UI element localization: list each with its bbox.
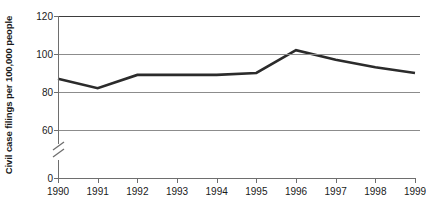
x-tick-mark-1996 bbox=[296, 178, 297, 183]
series-path bbox=[58, 50, 415, 88]
data-series-line bbox=[58, 16, 420, 178]
y-axis-spine-upper bbox=[58, 16, 59, 144]
plot-area: 6080100120019901991199219931994199519961… bbox=[58, 16, 420, 178]
y-tick-label-100: 100 bbox=[36, 49, 53, 60]
x-tick-mark-1992 bbox=[137, 178, 138, 183]
x-tick-mark-1997 bbox=[336, 178, 337, 183]
x-tick-label-1990: 1990 bbox=[47, 186, 69, 197]
x-tick-label-1994: 1994 bbox=[206, 186, 228, 197]
y-tick-label-120: 120 bbox=[36, 11, 53, 22]
x-tick-label-1996: 1996 bbox=[285, 186, 307, 197]
x-tick-mark-1994 bbox=[217, 178, 218, 183]
x-tick-label-1991: 1991 bbox=[87, 186, 109, 197]
y-tick-label-0: 0 bbox=[47, 173, 53, 184]
x-tick-mark-1990 bbox=[58, 178, 59, 183]
gridline-120 bbox=[58, 16, 420, 17]
x-tick-label-1998: 1998 bbox=[364, 186, 386, 197]
gridline-100 bbox=[58, 54, 420, 55]
gridline-80 bbox=[58, 92, 420, 93]
chart-figure: Civil case filings per 100,000 people 60… bbox=[0, 0, 426, 213]
x-tick-mark-1993 bbox=[177, 178, 178, 183]
x-tick-mark-1995 bbox=[256, 178, 257, 183]
x-tick-mark-1998 bbox=[375, 178, 376, 183]
gridline-60 bbox=[58, 130, 420, 131]
x-tick-label-1995: 1995 bbox=[245, 186, 267, 197]
y-tick-label-60: 60 bbox=[42, 125, 53, 136]
y-tick-label-80: 80 bbox=[42, 87, 53, 98]
y-axis-title: Civil case filings per 100,000 people bbox=[2, 0, 16, 190]
x-tick-mark-1999 bbox=[415, 178, 416, 183]
x-tick-label-1992: 1992 bbox=[126, 186, 148, 197]
x-tick-label-1999: 1999 bbox=[404, 186, 426, 197]
x-tick-mark-1991 bbox=[98, 178, 99, 183]
x-tick-label-1997: 1997 bbox=[325, 186, 347, 197]
x-tick-label-1993: 1993 bbox=[166, 186, 188, 197]
y-axis-spine-lower bbox=[58, 160, 59, 178]
x-axis-spine bbox=[58, 178, 415, 179]
